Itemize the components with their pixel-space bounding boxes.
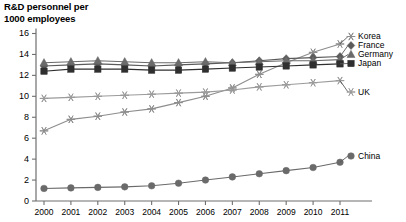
x-tick-label: 2006 (196, 207, 215, 217)
series-line (44, 81, 340, 99)
data-point-marker (94, 57, 102, 64)
series-uk (40, 77, 344, 102)
y-tick-label: 16 (19, 28, 29, 38)
data-point-marker (121, 92, 129, 99)
series-line (44, 44, 340, 131)
legend-group: KoreaFranceGermanyJapanUKChina (340, 31, 394, 162)
data-point-marker (94, 93, 102, 100)
data-point-marker (348, 153, 355, 160)
data-point-marker (40, 95, 48, 102)
data-point-marker (121, 108, 129, 115)
data-point-marker (310, 164, 317, 171)
data-point-marker (255, 83, 263, 90)
series-line (44, 64, 340, 71)
data-point-marker (122, 66, 128, 72)
x-tick-label: 2001 (61, 207, 80, 217)
line-chart-plot: 0246810121416 20002001200220032004200520… (0, 0, 406, 222)
y-tick-label: 6 (24, 133, 29, 143)
x-tick-label: 2007 (223, 207, 242, 217)
chart-page: R&D personnel per 1000 employees 0246810… (0, 0, 406, 222)
data-point-marker (41, 185, 48, 192)
data-point-marker (174, 99, 182, 106)
y-tick-label: 10 (19, 91, 29, 101)
legend-leader-line (340, 37, 348, 44)
legend-label-uk: UK (358, 87, 370, 97)
data-point-marker (174, 90, 182, 97)
data-point-marker (147, 105, 155, 112)
x-tick-label: 2005 (169, 207, 188, 217)
series-line (44, 60, 340, 63)
data-point-marker (67, 116, 75, 123)
x-tick-label: 2002 (88, 207, 107, 217)
data-point-marker (202, 66, 208, 72)
x-tick-label: 2003 (115, 207, 134, 217)
series-korea (40, 40, 344, 134)
series-line (44, 162, 340, 188)
series-china (41, 159, 344, 192)
legend-label-china: China (358, 151, 380, 161)
data-point-marker (68, 66, 74, 72)
x-axis-tick-group: 2000200120022003200420052006200720082009… (35, 201, 350, 217)
data-point-marker (148, 67, 154, 73)
x-tick-label: 2010 (304, 207, 323, 217)
data-point-marker (282, 81, 290, 88)
data-point-marker (256, 170, 263, 177)
data-point-marker (256, 64, 262, 70)
y-tick-label: 14 (19, 49, 29, 59)
y-tick-label: 8 (24, 112, 29, 122)
y-tick-label: 4 (24, 154, 29, 164)
y-axis-tick-group: 0246810121416 (19, 28, 36, 206)
x-tick-label: 2009 (277, 207, 296, 217)
x-tick-label: 2004 (142, 207, 161, 217)
data-point-marker (95, 66, 101, 72)
series-group (40, 40, 344, 191)
y-tick-label: 2 (24, 175, 29, 185)
x-tick-label: 2011 (331, 207, 350, 217)
data-point-marker (202, 177, 209, 184)
data-point-marker (121, 184, 128, 191)
data-point-marker (148, 183, 155, 190)
data-point-marker (95, 184, 102, 191)
data-point-marker (283, 63, 289, 69)
x-tick-label: 2000 (35, 207, 54, 217)
data-point-marker (229, 65, 235, 71)
data-point-marker (309, 79, 317, 86)
y-tick-label: 0 (24, 196, 29, 206)
data-point-marker (175, 180, 182, 187)
data-point-marker (41, 68, 47, 74)
data-point-marker (201, 93, 209, 100)
data-point-marker (94, 113, 102, 120)
legend-leader-line (340, 81, 348, 92)
data-point-marker (347, 33, 355, 40)
data-point-marker (201, 58, 209, 65)
data-point-marker (175, 67, 181, 73)
data-point-marker (347, 42, 355, 50)
data-point-marker (310, 62, 316, 68)
data-point-marker (283, 167, 290, 174)
data-point-marker (67, 94, 75, 101)
data-point-marker (255, 71, 263, 78)
data-point-marker (347, 50, 355, 57)
data-point-marker (147, 91, 155, 98)
data-point-marker (347, 88, 355, 95)
data-point-marker (348, 60, 354, 66)
legend-label-japan: Japan (358, 58, 381, 68)
data-point-marker (201, 88, 209, 95)
data-point-marker (229, 174, 236, 181)
data-point-marker (68, 185, 75, 192)
y-tick-label: 12 (19, 70, 29, 80)
data-point-marker (40, 127, 48, 134)
x-tick-label: 2008 (250, 207, 269, 217)
